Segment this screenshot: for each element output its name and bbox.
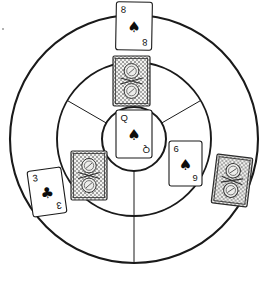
- diagram-canvas: 8♠8Q♠Q3♣36♠6: [0, 0, 271, 281]
- scan-artifacts: [2, 28, 4, 30]
- spoke-upper-right: [162, 101, 201, 124]
- card-corner-rank-bottom: Q: [143, 145, 150, 156]
- card-corner-rank-top: Q: [121, 112, 128, 123]
- card-back-left[interactable]: [71, 151, 107, 200]
- card-8-spades[interactable]: 8♠8: [116, 2, 153, 51]
- target-card-diagram: 8♠8Q♠Q3♣36♠6: [0, 0, 271, 281]
- card-6-spades[interactable]: 6♠6: [169, 141, 202, 186]
- card-suit-pip: ♣: [39, 183, 55, 203]
- card-suit-pip: ♠: [179, 156, 192, 174]
- card-corner-rank-top: 8: [121, 4, 126, 15]
- card-corner-rank-top: 6: [174, 143, 179, 154]
- speck-mark: [2, 28, 4, 30]
- card-back-right[interactable]: [211, 154, 253, 207]
- spoke-upper-left: [67, 101, 106, 124]
- card-suit-pip: ♠: [127, 18, 141, 36]
- card-3-clubs[interactable]: 3♣3: [27, 167, 67, 217]
- card-suit-pip: ♠: [127, 126, 140, 144]
- card-back-top[interactable]: [113, 56, 150, 106]
- card-corner-rank-bottom: 6: [193, 173, 198, 184]
- card-queen-spades[interactable]: Q♠Q: [116, 110, 152, 158]
- card-corner-rank-bottom: 8: [142, 37, 147, 48]
- cards-layer: 8♠8Q♠Q3♣36♠6: [27, 2, 253, 217]
